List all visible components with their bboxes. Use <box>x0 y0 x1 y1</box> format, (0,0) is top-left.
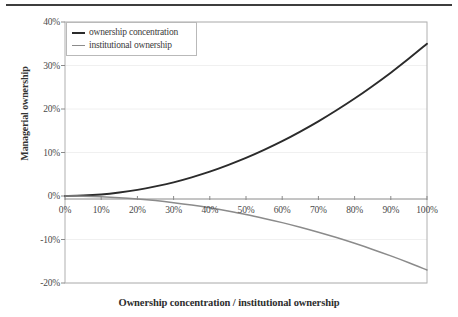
x-tick-label: 100% <box>407 205 447 215</box>
y-tick-label: 10% <box>26 148 60 158</box>
x-tick-label: 50% <box>226 205 266 215</box>
x-axis-title: Ownership concentration / institutional … <box>0 297 458 308</box>
y-axis-tickmarks <box>61 22 65 283</box>
x-tick-label: 60% <box>262 205 302 215</box>
legend-item-ownership-concentration: ownership concentration <box>72 26 191 39</box>
x-tick-label: 0% <box>45 205 85 215</box>
x-tick-label: 80% <box>335 205 375 215</box>
legend-item-institutional-ownership: institutional ownership <box>72 39 191 52</box>
y-tick-label: 40% <box>26 17 60 27</box>
figure: 40%30%20%10%0%-10%-20% 0%10%20%30%40%50%… <box>0 0 458 317</box>
y-tick-label: 0% <box>26 191 60 201</box>
x-tick-label: 90% <box>371 205 411 215</box>
x-tick-label: 40% <box>190 205 230 215</box>
chart-legend: ownership concentration institutional ow… <box>66 22 197 56</box>
x-axis-tick-labels: 0%10%20%30%40%50%60%70%80%90%100% <box>0 205 458 219</box>
y-tick-label: -10% <box>26 235 60 245</box>
y-tick-label: 30% <box>26 61 60 71</box>
x-tick-label: 30% <box>154 205 194 215</box>
y-tick-label: 20% <box>26 104 60 114</box>
x-tick-label: 10% <box>81 205 121 215</box>
legend-label-institutional-ownership: institutional ownership <box>89 40 172 51</box>
legend-swatch-institutional-ownership <box>72 45 85 46</box>
legend-swatch-ownership-concentration <box>72 32 85 34</box>
x-tick-label: 70% <box>298 205 338 215</box>
y-axis-title: Managerial ownership <box>19 44 30 184</box>
legend-label-ownership-concentration: ownership concentration <box>89 27 178 38</box>
y-tick-label: -20% <box>26 278 60 288</box>
x-tick-label: 20% <box>117 205 157 215</box>
